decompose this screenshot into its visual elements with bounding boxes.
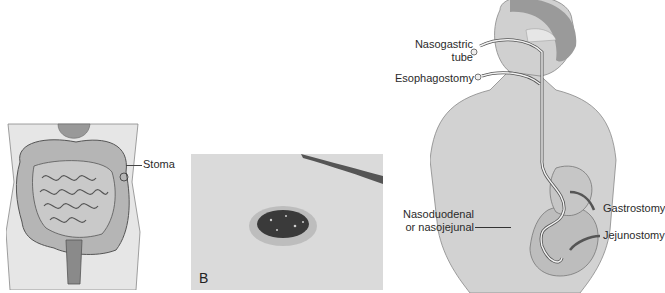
stoma-photo: B — [191, 154, 383, 290]
intestine-drawing — [6, 122, 141, 290]
panel-letter-b: B — [199, 270, 208, 286]
nasogastric-label-line1: Nasogastric — [413, 38, 473, 51]
jejunostomy-label: Jejunostomy — [603, 229, 665, 242]
stoma-leader-line — [126, 165, 142, 166]
nasoduodenal-label: Nasoduodenal or nasojejunal — [402, 208, 474, 234]
nasogastric-tube-label: Nasogastric tube — [413, 38, 473, 64]
nasoduodenal-label-line2: or nasojejunal — [402, 221, 474, 234]
esophagostomy-label: Esophagostomy — [395, 72, 474, 85]
stoma-label: Stoma — [143, 158, 175, 171]
nasogastric-label-line2: tube — [413, 51, 473, 64]
stoma-photo-drawing — [191, 154, 383, 290]
nasoduodenal-label-line1: Nasoduodenal — [402, 208, 474, 221]
nasoduodenal-leader-line — [475, 227, 511, 228]
gastrostomy-label: Gastrostomy — [603, 202, 665, 215]
intestine-illustration — [6, 122, 141, 290]
